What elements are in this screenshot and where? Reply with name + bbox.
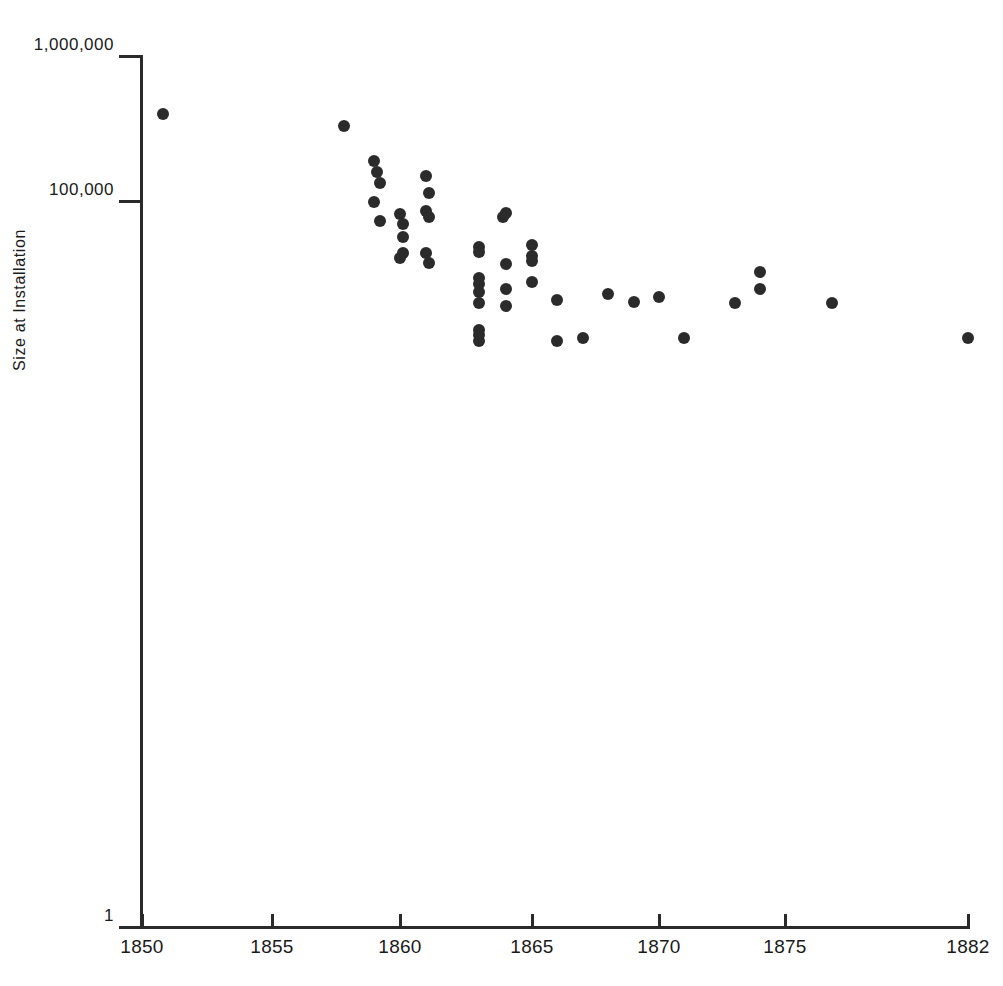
data-point xyxy=(473,335,485,347)
x-tick-label: 1882 xyxy=(946,936,989,958)
data-point xyxy=(397,247,409,259)
data-point xyxy=(526,276,538,288)
data-point xyxy=(374,177,386,189)
data-point xyxy=(826,297,838,309)
data-point xyxy=(602,288,614,300)
data-point xyxy=(678,332,690,344)
data-point xyxy=(500,300,512,312)
data-point xyxy=(423,187,435,199)
data-point xyxy=(473,246,485,258)
data-point xyxy=(420,170,432,182)
y-tick-mark xyxy=(119,926,141,929)
x-tick-label: 1875 xyxy=(763,936,806,958)
data-point xyxy=(526,255,538,267)
data-point xyxy=(473,329,485,341)
x-tick-label: 1860 xyxy=(378,936,421,958)
y-tick-label: 1 xyxy=(0,906,114,926)
y-axis-line xyxy=(140,55,143,929)
y-tick-label-text: 1,000,000 xyxy=(34,35,114,55)
data-point xyxy=(374,215,386,227)
data-point xyxy=(473,278,485,290)
y-tick-label-text: 1 xyxy=(104,906,114,926)
x-tick-mark xyxy=(658,914,661,928)
x-tick-label: 1870 xyxy=(637,936,680,958)
x-tick-mark xyxy=(967,914,970,928)
data-point xyxy=(423,211,435,223)
data-point xyxy=(397,231,409,243)
data-point xyxy=(628,296,640,308)
data-point xyxy=(473,297,485,309)
data-point xyxy=(577,332,589,344)
plot-area xyxy=(0,0,1003,986)
data-point xyxy=(420,247,432,259)
x-tick-label: 1850 xyxy=(120,936,163,958)
data-point xyxy=(371,166,383,178)
data-point xyxy=(754,283,766,295)
data-point xyxy=(653,291,665,303)
data-point xyxy=(500,258,512,270)
data-point xyxy=(526,239,538,251)
y-tick-label: 1,000,000 xyxy=(0,35,114,55)
x-tick-mark xyxy=(531,914,534,928)
data-point xyxy=(338,120,350,132)
x-tick-mark xyxy=(399,914,402,928)
data-point xyxy=(420,205,432,217)
data-point xyxy=(397,218,409,230)
y-axis-title-text: Size at Installation xyxy=(11,229,29,371)
x-tick-label: 1855 xyxy=(250,936,293,958)
data-point xyxy=(754,266,766,278)
data-point xyxy=(473,241,485,253)
data-point xyxy=(394,252,406,264)
data-point xyxy=(423,257,435,269)
data-point xyxy=(500,283,512,295)
data-point xyxy=(729,297,741,309)
data-point xyxy=(394,208,406,220)
y-tick-label: 100,000 xyxy=(0,180,114,200)
data-point xyxy=(962,332,974,344)
data-point xyxy=(551,335,563,347)
data-point xyxy=(473,286,485,298)
x-tick-mark xyxy=(271,914,274,928)
data-point xyxy=(473,272,485,284)
y-tick-mark xyxy=(119,200,141,203)
data-point xyxy=(497,211,509,223)
data-point xyxy=(368,155,380,167)
y-tick-label-text: 100,000 xyxy=(49,180,114,200)
y-tick-mark xyxy=(119,55,141,58)
x-tick-mark xyxy=(141,914,144,928)
data-point xyxy=(551,294,563,306)
data-point xyxy=(473,324,485,336)
data-point xyxy=(157,108,169,120)
x-tick-mark xyxy=(784,914,787,928)
data-point xyxy=(368,196,380,208)
scatter-plot-figure: Size at Installation 1,000,000100,0001 1… xyxy=(0,0,1003,986)
x-axis-line xyxy=(140,926,970,929)
x-tick-label: 1865 xyxy=(510,936,553,958)
data-point xyxy=(500,207,512,219)
data-point xyxy=(526,250,538,262)
